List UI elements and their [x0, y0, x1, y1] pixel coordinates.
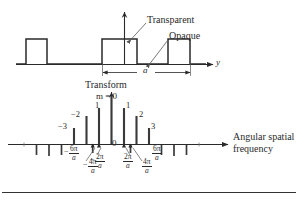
tick-numerator-minus-2pi: 2π: [95, 153, 105, 161]
figure-container: Transparent Opaque a y Transform m = 0 −…: [0, 0, 298, 200]
tick-denominator-plus-4pi: a: [142, 166, 152, 175]
transform-plot-axes: [8, 92, 228, 145]
frequency-axis-label-line2: frequency: [233, 144, 273, 155]
tick-sign-minus-2pi: −: [90, 156, 95, 164]
order-label-plus3: 3: [151, 121, 155, 131]
transform-title: Transform: [85, 80, 127, 91]
y-axis-label: y: [216, 58, 220, 67]
tick-label-plus-6pi-over-a: 6π a: [152, 145, 162, 161]
grating-waveform: [16, 39, 206, 64]
tick-label-zero: 0: [112, 139, 117, 148]
bottom-divider-rule: [2, 192, 296, 193]
spectrum-lines-positive: [74, 96, 149, 144]
tick-denominator-minus-6pi: a: [69, 153, 79, 162]
order-label-plus2: 2: [139, 109, 143, 119]
tick-numerator-minus-6pi: 6π: [69, 145, 79, 153]
tick-numerator-plus-6pi: 6π: [152, 145, 162, 153]
tick-numerator-plus-4pi: 4π: [142, 158, 152, 166]
frequency-axis-label-line1: Angular spatial: [233, 132, 294, 143]
order-label-minus1: 1: [95, 100, 99, 110]
opaque-leader: [150, 40, 168, 64]
tick-denominator-plus-6pi: a: [152, 153, 162, 162]
tick-label-minus-6pi-over-a: − 6π a: [69, 145, 79, 161]
transparent-label: Transparent: [147, 15, 194, 26]
period-label: a: [143, 66, 148, 75]
order-label-minus2: −2: [71, 109, 80, 119]
order-label-plus1: 1: [126, 100, 130, 110]
order-label-minus3: −3: [58, 121, 67, 131]
leader-plus-4pi-a: [133, 148, 142, 161]
opaque-label: Opaque: [169, 31, 200, 42]
tick-sign-minus-4pi: −: [83, 161, 88, 169]
tick-numerator-plus-2pi: 2π: [123, 153, 133, 161]
tick-sign-minus-6pi: −: [64, 148, 69, 156]
square-wave-path: [16, 39, 206, 64]
tick-label-plus-4pi-over-a: 4π a: [142, 158, 152, 174]
tick-label-plus-2pi-over-a: 2π a: [123, 153, 133, 169]
tick-denominator-minus-2pi: a: [95, 161, 105, 170]
tick-label-minus-2pi-over-a: − 2π a: [95, 153, 105, 169]
transparent-leader: [131, 23, 146, 40]
tick-denominator-plus-2pi: a: [123, 161, 133, 170]
